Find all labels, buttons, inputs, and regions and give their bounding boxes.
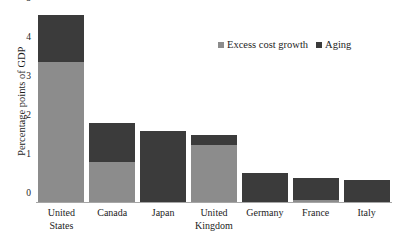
x-axis-category-labels: UnitedStatesCanadaJapanUnitedKingdomGerm… bbox=[36, 206, 392, 246]
legend-item[interactable]: Aging bbox=[316, 40, 351, 51]
x-axis-label: France bbox=[290, 206, 341, 219]
y-axis-tick-label: 0 bbox=[26, 189, 31, 199]
legend-label: Aging bbox=[325, 40, 351, 51]
bar-segment[interactable] bbox=[89, 123, 135, 162]
bar-group[interactable] bbox=[140, 8, 186, 203]
bar-stack bbox=[38, 15, 84, 203]
bar-segment[interactable] bbox=[191, 145, 237, 204]
bar-group[interactable] bbox=[191, 8, 237, 203]
x-axis-label-line: United bbox=[36, 206, 87, 219]
x-axis-label-line: Japan bbox=[138, 206, 189, 219]
stacked-bar-chart: Percentage points of GDP 012345 UnitedSt… bbox=[0, 0, 398, 246]
bar-group[interactable] bbox=[242, 8, 288, 203]
x-axis-label: Italy bbox=[341, 206, 392, 219]
bar-group[interactable] bbox=[344, 8, 390, 203]
x-axis-line bbox=[36, 202, 392, 203]
bars-layer bbox=[36, 8, 392, 203]
bar-segment[interactable] bbox=[38, 15, 84, 62]
x-axis-label: Germany bbox=[239, 206, 290, 219]
x-axis-label: Canada bbox=[87, 206, 138, 219]
bar-segment[interactable] bbox=[140, 131, 186, 203]
bar-stack bbox=[293, 178, 339, 203]
bar-segment[interactable] bbox=[191, 135, 237, 145]
x-axis-label-line: France bbox=[290, 206, 341, 219]
x-axis-label-line: States bbox=[36, 219, 87, 232]
bar-segment[interactable] bbox=[344, 180, 390, 203]
bar-stack bbox=[191, 135, 237, 203]
x-axis-label: UnitedKingdom bbox=[189, 206, 240, 232]
x-axis-label-line: Canada bbox=[87, 206, 138, 219]
legend-swatch-icon bbox=[218, 42, 224, 48]
legend-swatch-icon bbox=[316, 42, 322, 48]
x-axis-label: UnitedStates bbox=[36, 206, 87, 232]
bar-stack bbox=[140, 131, 186, 203]
chart-legend: Excess cost growthAging bbox=[218, 40, 351, 51]
bar-stack bbox=[344, 180, 390, 203]
y-axis-tick-label: 4 bbox=[26, 33, 31, 43]
y-axis-tick-label: 5 bbox=[26, 0, 31, 3]
bar-stack bbox=[242, 173, 288, 203]
bar-segment[interactable] bbox=[293, 178, 339, 199]
y-axis-tick-label: 3 bbox=[26, 72, 31, 82]
legend-item[interactable]: Excess cost growth bbox=[218, 40, 308, 51]
x-axis-label-line: Italy bbox=[341, 206, 392, 219]
y-axis-tick-label: 1 bbox=[26, 150, 31, 160]
bar-segment[interactable] bbox=[38, 62, 84, 203]
bar-stack bbox=[89, 123, 135, 203]
plot-area: 012345 bbox=[36, 8, 392, 203]
x-axis-label-line: Germany bbox=[239, 206, 290, 219]
bar-group[interactable] bbox=[38, 8, 84, 203]
x-axis-label-line: Kingdom bbox=[189, 219, 240, 232]
bar-group[interactable] bbox=[89, 8, 135, 203]
bar-segment[interactable] bbox=[89, 162, 135, 203]
x-axis-label: Japan bbox=[138, 206, 189, 219]
legend-label: Excess cost growth bbox=[227, 40, 308, 51]
x-axis-label-line: United bbox=[189, 206, 240, 219]
bar-segment[interactable] bbox=[242, 173, 288, 203]
y-axis-tick-label: 2 bbox=[26, 111, 31, 121]
bar-group[interactable] bbox=[293, 8, 339, 203]
